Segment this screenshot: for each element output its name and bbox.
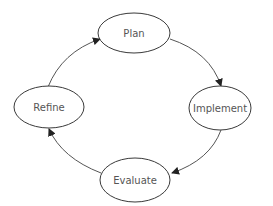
edge-refine-to-plan	[48, 39, 100, 87]
node-implement: Implement	[189, 86, 251, 130]
node-refine: Refine	[14, 86, 84, 128]
edge-implement-to-evaluate	[172, 130, 221, 173]
node-refine-label: Refine	[33, 102, 64, 113]
edge-evaluate-to-refine	[49, 129, 101, 173]
node-implement-label: Implement	[193, 103, 247, 114]
edge-plan-to-implement	[170, 39, 221, 86]
node-evaluate: Evaluate	[100, 158, 170, 202]
node-evaluate-label: Evaluate	[113, 175, 157, 186]
cycle-diagram: Plan Implement Evaluate Refine	[0, 0, 273, 206]
node-plan: Plan	[98, 13, 170, 53]
node-plan-label: Plan	[123, 28, 144, 39]
